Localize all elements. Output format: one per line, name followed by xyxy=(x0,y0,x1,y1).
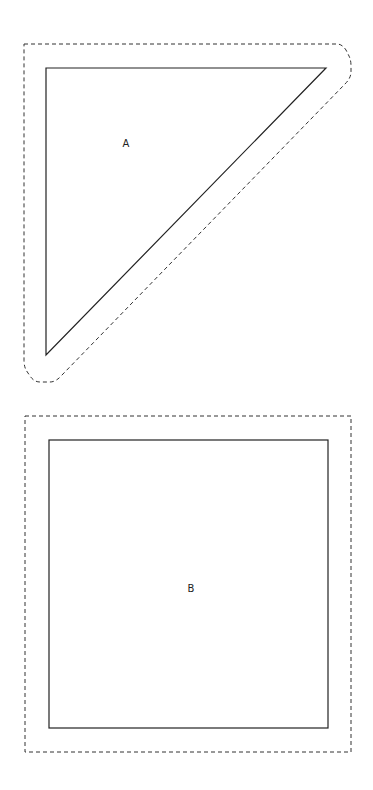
shape-a-triangle xyxy=(46,68,326,355)
diagram-canvas: A B xyxy=(0,0,373,790)
shape-a-group: A xyxy=(24,44,351,382)
shape-a-label: A xyxy=(123,138,130,149)
shape-b-group: B xyxy=(25,416,351,752)
shape-b-label: B xyxy=(188,583,195,594)
